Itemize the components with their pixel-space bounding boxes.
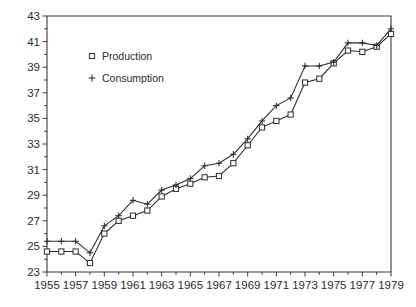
data-point-marker: [87, 260, 92, 265]
data-point-marker: [159, 194, 164, 199]
chart-legend: ProductionConsumption: [89, 50, 164, 84]
data-point-marker: [274, 118, 279, 123]
data-point-marker: [359, 40, 365, 46]
chart-container: 2325272931333537394143 19551957195919611…: [0, 0, 416, 307]
x-tick-label: 1957: [63, 279, 89, 291]
data-point-marker: [231, 161, 236, 166]
x-tick-label: 1961: [120, 279, 146, 291]
series-production: [44, 31, 393, 265]
x-tick-label: 1975: [321, 279, 347, 291]
data-point-marker: [73, 249, 78, 254]
series-consumption: [44, 26, 394, 256]
data-point-marker: [360, 49, 365, 54]
data-point-marker: [302, 63, 308, 69]
series-line-consumption: [47, 29, 391, 253]
x-tick-label: 1969: [235, 279, 261, 291]
data-point-marker: [102, 231, 107, 236]
y-tick-label: 43: [27, 10, 40, 22]
x-tick-label: 1971: [264, 279, 290, 291]
data-point-marker: [130, 213, 135, 218]
y-axis-tick-labels: 2325272931333537394143: [27, 10, 40, 278]
line-chart: 2325272931333537394143 19551957195919611…: [0, 0, 416, 307]
x-tick-label: 1955: [34, 279, 60, 291]
x-axis-tick-labels: 1955195719591961196319651967196919711973…: [34, 279, 404, 291]
data-point-marker: [116, 218, 121, 223]
data-point-marker: [345, 48, 350, 53]
data-point-marker: [59, 249, 64, 254]
data-point-marker: [145, 208, 150, 213]
x-axis-ticks: [47, 272, 391, 277]
x-tick-label: 1973: [292, 279, 318, 291]
data-point-marker: [216, 160, 222, 166]
x-tick-label: 1963: [149, 279, 175, 291]
data-point-marker: [388, 31, 393, 36]
data-point-marker: [202, 175, 207, 180]
data-point-marker: [317, 76, 322, 81]
y-tick-label: 35: [27, 112, 40, 124]
legend-item-production: Production: [89, 50, 152, 62]
data-point-marker: [259, 125, 264, 130]
data-point-marker: [316, 63, 322, 69]
data-point-marker: [245, 143, 250, 148]
data-point-marker: [216, 173, 221, 178]
y-axis-ticks: [43, 16, 48, 272]
legend-plus-icon: [89, 75, 96, 82]
y-tick-label: 31: [27, 164, 40, 176]
legend-item-consumption: Consumption: [89, 72, 164, 84]
data-point-marker: [44, 249, 49, 254]
chart-series: [44, 26, 394, 266]
y-tick-label: 33: [27, 138, 40, 150]
x-tick-label: 1959: [92, 279, 118, 291]
data-point-marker: [188, 181, 193, 186]
legend-label: Production: [102, 50, 152, 62]
y-tick-label: 41: [27, 36, 40, 48]
x-tick-label: 1967: [206, 279, 232, 291]
data-point-marker: [287, 95, 293, 101]
x-tick-label: 1979: [378, 279, 404, 291]
y-tick-label: 29: [27, 189, 40, 201]
x-tick-label: 1965: [178, 279, 204, 291]
data-point-marker: [288, 112, 293, 117]
legend-square-icon: [89, 53, 94, 58]
data-point-marker: [302, 80, 307, 85]
legend-label: Consumption: [102, 72, 164, 84]
y-tick-label: 39: [27, 61, 40, 73]
series-line-production: [47, 34, 391, 263]
data-point-marker: [44, 238, 50, 244]
y-tick-label: 23: [27, 266, 40, 278]
x-tick-label: 1977: [350, 279, 376, 291]
y-tick-label: 25: [27, 240, 40, 252]
y-tick-label: 37: [27, 87, 40, 99]
y-tick-label: 27: [27, 215, 40, 227]
data-point-marker: [58, 238, 64, 244]
